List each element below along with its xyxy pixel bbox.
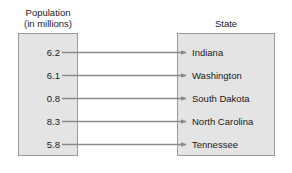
population-value-3: 0.8 xyxy=(18,94,60,104)
state-value-2: Washington xyxy=(192,71,278,81)
state-value-5: Tennessee xyxy=(192,140,278,150)
population-value-1: 6.2 xyxy=(18,48,60,58)
population-header-label: Population (in millions) xyxy=(18,7,78,29)
population-value-2: 6.1 xyxy=(18,71,60,81)
population-value-4: 8.3 xyxy=(18,117,60,127)
state-value-1: Indiana xyxy=(192,48,278,58)
state-value-4: North Carolina xyxy=(192,117,278,127)
state-header-label: State xyxy=(177,18,275,29)
population-value-5: 5.8 xyxy=(18,140,60,150)
state-value-3: South Dakota xyxy=(192,94,278,104)
mapping-diagram: Population (in millions) State 6.2 6.1 0… xyxy=(0,0,292,173)
